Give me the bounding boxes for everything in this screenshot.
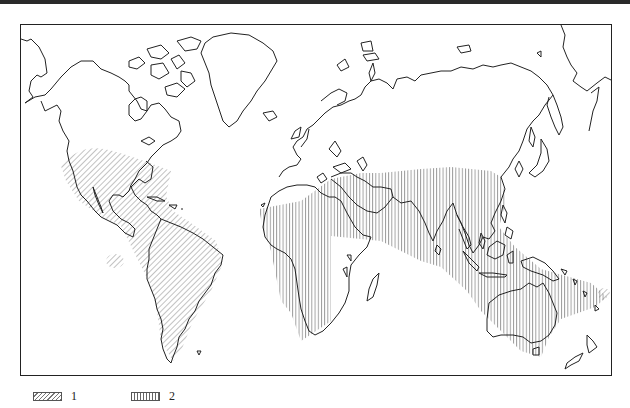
madagascar-outline (367, 273, 379, 301)
legend-item-2: 2 (131, 390, 175, 402)
legend-item-1: 1 (33, 390, 77, 402)
map-legend: 1 2 (0, 384, 630, 406)
legend-label-2: 2 (169, 390, 175, 402)
vertical-hatch-swatch-icon (131, 392, 160, 401)
diagonal-hatch-swatch-icon (33, 392, 62, 401)
zone-1-hawaii-patch (106, 254, 124, 268)
new-zealand-outline (587, 335, 597, 353)
legend-label-1: 1 (71, 390, 77, 402)
world-map (21, 25, 612, 376)
zone-1-fiji-patch (598, 288, 610, 300)
top-border-band (0, 0, 630, 4)
siberia-coastline (361, 63, 553, 95)
world-map-frame (20, 24, 612, 376)
europe-outline (279, 95, 361, 177)
